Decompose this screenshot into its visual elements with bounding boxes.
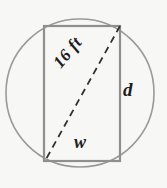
width-label: w — [74, 133, 86, 151]
depth-label: d — [123, 80, 133, 99]
figure-canvas — [0, 0, 167, 188]
geometry-figure: 16 ft d w — [0, 0, 167, 188]
